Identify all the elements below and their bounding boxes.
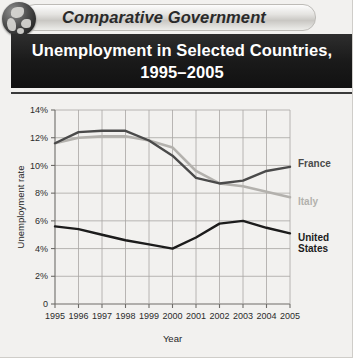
series-label-united-states: United [298,232,329,243]
y-tick-label: 8% [35,188,48,198]
x-tick-label: 2001 [186,311,206,321]
y-axis-ticks: 02%4%6%8%10%12%14% [30,105,55,309]
line-chart: 02%4%6%8%10%12%14% 199519961997199819992… [0,96,353,358]
x-tick-label: 2002 [209,311,229,321]
x-tick-label: 1999 [139,311,159,321]
x-tick-label: 2003 [233,311,253,321]
y-tick-label: 6% [35,216,48,226]
y-tick-label: 4% [35,244,48,254]
x-tick-label: 1995 [45,311,65,321]
series-labels: FranceItalyUnitedStates [298,158,331,254]
x-tick-label: 1998 [115,311,135,321]
chart-figure: Comparative Government Unemployment in S… [0,0,353,358]
series-label-france: France [298,158,331,169]
y-tick-label: 0 [43,299,48,309]
x-tick-label: 2000 [162,311,182,321]
x-axis-ticks: 1995199619971998199920002001200220032004… [45,304,300,321]
title-underrule [11,92,353,94]
chart-title-line-2: 1995–2005 [11,63,353,82]
x-axis-title: Year [163,333,182,344]
series-label-united-states: States [298,243,328,254]
eyebrow-banner: Comparative Government [0,2,353,34]
x-tick-label: 2004 [256,311,276,321]
y-tick-label: 10% [30,161,48,171]
chart-title-line-1: Unemployment in Selected Countries, [11,41,353,60]
eyebrow-label: Comparative Government [62,8,312,27]
globe-icon [2,2,36,36]
y-tick-label: 14% [30,105,48,115]
series-label-italy: Italy [298,196,318,207]
chart-title-bar: Unemployment in Selected Countries, 1995… [11,34,353,88]
y-axis-title: Unemployment rate [15,166,26,249]
chart-canvas: 02%4%6%8%10%12%14% 199519961997199819992… [0,96,353,358]
x-tick-label: 2005 [280,311,300,321]
y-tick-label: 12% [30,133,48,143]
y-tick-label: 2% [35,271,48,281]
x-tick-label: 1996 [68,311,88,321]
x-tick-label: 1997 [92,311,112,321]
grid-lines [55,110,290,304]
